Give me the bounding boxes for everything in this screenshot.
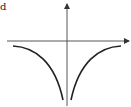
function-graph: [0, 0, 131, 107]
left-branch-curve: [13, 46, 63, 100]
right-branch-curve: [71, 46, 121, 100]
